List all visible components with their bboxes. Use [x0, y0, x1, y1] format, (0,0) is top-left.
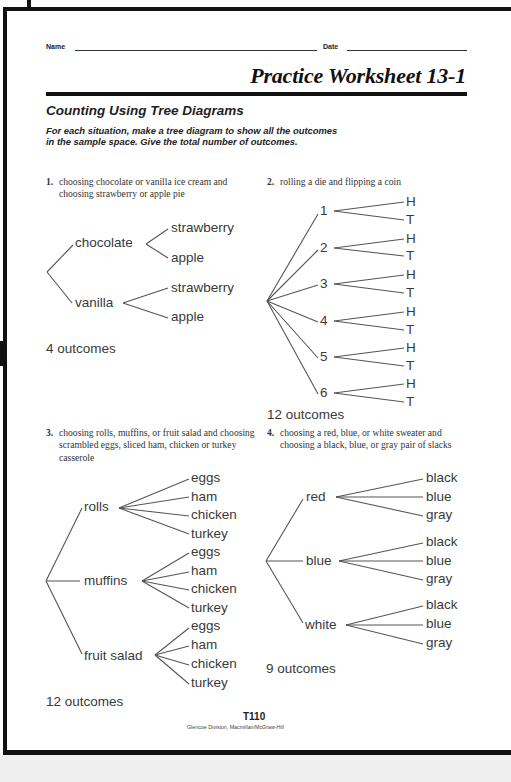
- tree3-leaf: chicken: [191, 657, 237, 671]
- tree2-leaf: H: [406, 268, 416, 282]
- tree1-branch-vanilla: vanilla: [75, 296, 113, 310]
- tree3-leaf: eggs: [191, 619, 220, 633]
- tree3-leaf: turkey: [191, 527, 228, 541]
- tree2-branch: 4: [320, 314, 328, 328]
- tree4-branch-white: white: [305, 618, 337, 632]
- tree4-leaf: gray: [426, 508, 452, 522]
- tree3-branch-rolls: rolls: [84, 500, 109, 514]
- tree2-branch: 3: [320, 277, 328, 291]
- tree4-branch-blue: blue: [306, 554, 332, 568]
- page-number: T110: [243, 711, 265, 722]
- tree3-branch-fruit-salad: fruit salad: [84, 649, 143, 663]
- tree2-branch: 6: [320, 386, 328, 400]
- tree1-branch-chocolate: chocolate: [75, 236, 133, 250]
- tree2-leaf: H: [406, 195, 416, 209]
- tree3-leaf: turkey: [191, 676, 228, 690]
- tree3-branch-muffins: muffins: [84, 574, 127, 588]
- tree2-leaf: T: [406, 286, 414, 300]
- tree4-leaf: black: [426, 535, 458, 549]
- tree3-leaf: chicken: [191, 508, 237, 522]
- tree2-leaf: H: [406, 341, 416, 355]
- tree4-leaf: blue: [426, 617, 452, 631]
- tree3-leaf: ham: [191, 638, 217, 652]
- tree4-leaf: black: [426, 598, 458, 612]
- tree4-leaf: blue: [426, 554, 452, 568]
- tree1-leaf: strawberry: [171, 281, 234, 295]
- tree2-leaf: H: [406, 305, 416, 319]
- tree4-leaf: gray: [426, 572, 452, 586]
- tree4-outcomes: 9 outcomes: [266, 661, 336, 676]
- tree3-leaf: chicken: [191, 582, 237, 596]
- tree3-leaf: ham: [191, 490, 217, 504]
- tree4-leaf: black: [426, 471, 458, 485]
- tree2-leaf: T: [406, 359, 414, 373]
- worksheet-page: Name Date Practice Worksheet 13-1 Counti…: [0, 0, 511, 755]
- tree1-leaf: strawberry: [171, 221, 234, 235]
- tree3-leaf: eggs: [191, 545, 220, 559]
- tree2-branch: 1: [320, 204, 328, 218]
- tree3-leaf: eggs: [191, 471, 220, 485]
- tree2-leaf: H: [406, 232, 416, 246]
- tree1-outcomes: 4 outcomes: [46, 341, 116, 356]
- tree4-branch-red: red: [306, 490, 326, 504]
- tree4-leaf: blue: [426, 490, 452, 504]
- tree3-leaf: ham: [191, 564, 217, 578]
- tree1-leaf: apple: [171, 251, 204, 265]
- tree3-leaf: turkey: [191, 601, 228, 615]
- tree4-leaf: gray: [426, 636, 452, 650]
- tree2-leaf: T: [406, 213, 414, 227]
- tree2-leaf: T: [406, 323, 414, 337]
- tree2-outcomes: 12 outcomes: [267, 407, 344, 422]
- tree2-leaf: T: [406, 249, 414, 263]
- publisher-credit: Glencoe Division, Macmillan/McGraw-Hill: [187, 724, 284, 730]
- tree2-branch: 5: [320, 350, 328, 364]
- tree2-branch: 2: [320, 241, 328, 255]
- tree2-leaf: H: [406, 377, 416, 391]
- tree1-leaf: apple: [171, 310, 204, 324]
- tree2-leaf: T: [406, 395, 414, 409]
- tree3-outcomes: 12 outcomes: [46, 694, 123, 709]
- tree-diagram-lines: [0, 0, 511, 782]
